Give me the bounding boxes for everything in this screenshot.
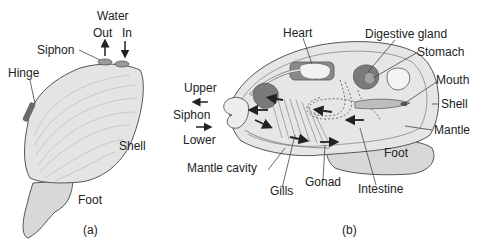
label-out: Out [93,26,113,40]
gland-outline [387,68,410,90]
stomach [364,72,375,84]
label-mouth: Mouth [436,73,469,87]
label-shell-a: Shell [119,139,146,153]
siphon-out-a [98,59,112,65]
label-siphon-b: Siphon [173,108,210,122]
label-gills: Gills [270,184,293,198]
siphon-in-a [115,61,129,67]
kidney-organ [253,83,278,108]
caption-b: (b) [342,223,357,237]
label-lower: Lower [183,133,216,147]
clam-anatomy-diagram: Water Out In Siphon Hinge Shell Foot (a) [0,0,484,248]
foot-a [23,180,73,238]
label-foot-a: Foot [78,193,103,207]
label-siphon-a: Siphon [37,43,74,57]
label-foot-b: Foot [384,146,409,160]
panel-b-clam-interior: Heart Digestive gland Stomach Mouth Shel… [173,26,470,237]
label-gonad: Gonad [305,175,341,189]
caption-a: (a) [83,223,98,237]
mouth [401,102,408,106]
label-water: Water [97,9,129,23]
panel-a-clam-exterior: Water Out In Siphon Hinge Shell Foot (a) [8,9,146,238]
label-intestine: Intestine [358,182,404,196]
label-digestive-gland: Digestive gland [365,27,447,41]
label-hinge: Hinge [8,66,40,80]
label-in: In [122,26,132,40]
label-stomach: Stomach [417,45,464,59]
label-heart: Heart [283,26,313,40]
label-mantle-cavity: Mantle cavity [187,161,257,175]
label-shell-b: Shell [441,97,468,111]
label-mantle: Mantle [434,123,470,137]
label-upper: Upper [184,81,217,95]
heart [300,63,331,79]
shell-a [25,64,144,183]
